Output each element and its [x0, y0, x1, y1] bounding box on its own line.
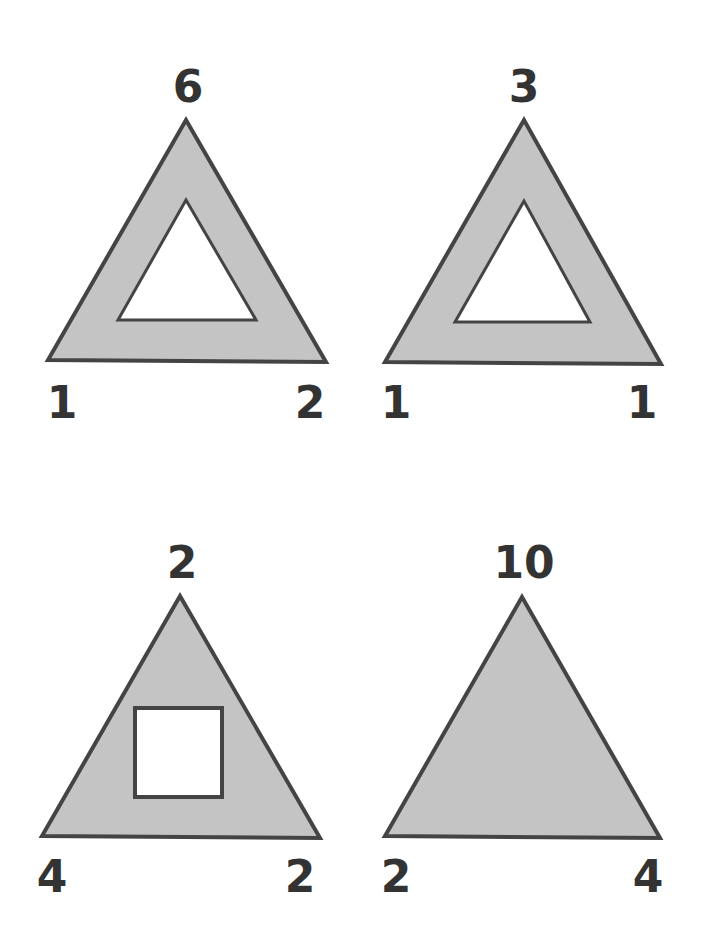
figure-top-right: 3 1 1 [381, 61, 661, 428]
figure-top-left: 6 1 2 [47, 61, 326, 428]
right-number: 2 [295, 377, 326, 428]
right-number: 1 [627, 377, 658, 428]
top-number: 2 [167, 537, 198, 588]
inner-square [135, 708, 222, 797]
left-number: 1 [47, 377, 78, 428]
figure-bottom-left: 2 4 2 [37, 537, 320, 902]
right-number: 4 [633, 851, 664, 902]
top-number: 3 [509, 61, 540, 112]
left-number: 4 [37, 851, 68, 902]
right-number: 2 [285, 851, 316, 902]
outer-triangle [385, 597, 660, 838]
left-number: 1 [381, 377, 412, 428]
figure-bottom-right: 10 2 4 [381, 537, 664, 902]
puzzle-canvas: 6 1 2 3 1 1 2 4 2 10 2 4 [0, 0, 713, 936]
top-number: 10 [493, 537, 554, 588]
top-number: 6 [173, 61, 204, 112]
left-number: 2 [381, 851, 412, 902]
